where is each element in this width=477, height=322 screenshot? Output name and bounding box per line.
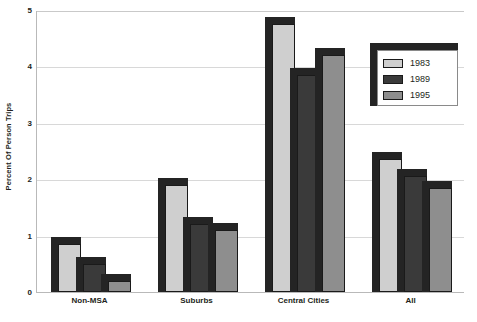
x-axis-tick-label-non-msa: Non-MSA	[72, 297, 108, 305]
bar-top-face	[208, 223, 238, 230]
bar-central-cities-1995[interactable]	[322, 55, 345, 292]
bar-group	[272, 11, 345, 292]
legend-box: 198319891995	[377, 50, 458, 106]
bar-side-face	[397, 176, 404, 292]
bar-side-face	[372, 159, 379, 292]
legend-swatch-1983	[383, 59, 403, 68]
bar-side-face	[76, 264, 83, 292]
y-axis-tick-label: 1	[28, 233, 32, 241]
bar-group	[165, 11, 238, 292]
bar-side-face	[265, 24, 272, 292]
bar-side-face	[51, 244, 58, 292]
bar-side-face	[422, 188, 429, 292]
bar-side-face	[158, 185, 165, 292]
legend-label-1983: 1983	[410, 59, 430, 68]
bar-top-face	[315, 48, 345, 55]
bar-all-1995[interactable]	[429, 188, 452, 292]
bar-side-face	[290, 75, 297, 292]
legend-item-1983[interactable]: 1983	[383, 55, 452, 71]
legend: 198319891995	[370, 43, 458, 106]
bar-group	[58, 11, 131, 292]
bar-top-face	[397, 169, 427, 176]
bar-front-face	[215, 230, 238, 292]
bar-front-face	[429, 188, 452, 292]
y-axis-tick-label: 3	[28, 120, 32, 128]
y-axis-tick-label: 5	[28, 7, 32, 15]
y-axis-title-label: Percent Of Person Trips	[5, 102, 14, 190]
legend-swatch-1989	[383, 75, 403, 84]
bar-side-face	[101, 281, 108, 292]
bar-top-face	[372, 152, 402, 159]
bar-front-face	[108, 281, 131, 292]
bar-side-face	[183, 224, 190, 292]
y-axis-title: Percent Of Person Trips	[0, 0, 18, 292]
bar-side-face	[315, 55, 322, 292]
bar-non-msa-1995[interactable]	[108, 281, 131, 292]
bar-top-face	[76, 257, 106, 264]
x-axis-tick-label-suburbs: Suburbs	[180, 297, 212, 305]
legend-swatch-1995	[383, 91, 403, 100]
bar-chart: Percent Of Person Trips 012345 Non-MSASu…	[0, 0, 477, 322]
bar-side-face	[208, 230, 215, 292]
bar-suburbs-1995[interactable]	[215, 230, 238, 292]
x-axis-tick-labels: Non-MSASuburbsCentral CitiesAll	[36, 297, 464, 315]
legend-item-1989[interactable]: 1989	[383, 71, 452, 87]
bar-front-face	[322, 55, 345, 292]
x-axis-tick-label-all: All	[405, 297, 415, 305]
bar-top-face	[158, 178, 188, 185]
bar-top-face	[422, 181, 452, 188]
y-axis-tick-label: 2	[28, 176, 32, 184]
legend-label-1995: 1995	[410, 91, 430, 100]
legend-item-1995[interactable]: 1995	[383, 87, 452, 103]
y-axis-tick-label: 0	[28, 289, 32, 297]
legend-label-1989: 1989	[410, 75, 430, 84]
bar-top-face	[265, 17, 295, 24]
bar-top-face	[51, 237, 81, 244]
y-axis-tick-label: 4	[28, 63, 32, 71]
bar-top-face	[101, 274, 131, 281]
x-axis-tick-label-central-cities: Central Cities	[278, 297, 330, 305]
